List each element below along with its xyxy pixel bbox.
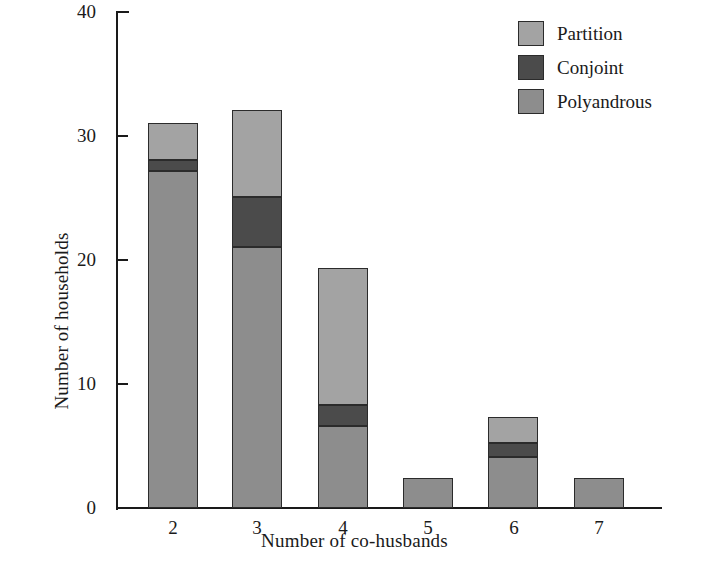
bar-group-7[interactable] <box>574 478 624 508</box>
bar-segment-conjoint <box>232 197 282 247</box>
bar-segment-partition <box>318 268 368 405</box>
stacked-bar-chart-figure: 40 30 20 10 0 <box>0 0 709 572</box>
bar-segment-conjoint <box>318 405 368 426</box>
legend-swatch-partition-icon <box>518 21 544 46</box>
bar-group-5[interactable] <box>403 478 453 508</box>
bar-segment-conjoint <box>488 443 538 457</box>
bar-group-6[interactable] <box>488 417 538 508</box>
bar-segment-polyandrous <box>574 478 624 508</box>
bar-segment-polyandrous <box>488 457 538 508</box>
legend-item-polyandrous[interactable]: Polyandrous <box>518 84 652 118</box>
bar-segment-polyandrous <box>403 478 453 508</box>
bar-group-4[interactable] <box>318 268 368 508</box>
bar-segment-partition <box>232 110 282 197</box>
legend-swatch-conjoint-icon <box>518 55 544 80</box>
legend: Partition Conjoint Polyandrous <box>518 16 652 118</box>
legend-label-polyandrous: Polyandrous <box>557 92 652 111</box>
y-axis-title-wrapper: Number of households <box>30 60 70 460</box>
legend-item-partition[interactable]: Partition <box>518 16 652 50</box>
legend-label-partition: Partition <box>557 24 622 43</box>
bar-segment-conjoint <box>148 160 198 171</box>
bar-segment-polyandrous <box>318 426 368 508</box>
bar-segment-polyandrous <box>148 171 198 508</box>
y-axis-title: Number of households <box>51 121 73 521</box>
bar-segment-polyandrous <box>232 247 282 508</box>
bar-segment-partition <box>488 417 538 443</box>
bar-group-2[interactable] <box>148 123 198 508</box>
legend-swatch-polyandrous-icon <box>518 89 544 114</box>
bar-segment-partition <box>148 123 198 160</box>
legend-label-conjoint: Conjoint <box>557 58 624 77</box>
x-axis-title: Number of co-husbands <box>0 530 709 552</box>
bar-group-3[interactable] <box>232 110 282 508</box>
legend-item-conjoint[interactable]: Conjoint <box>518 50 652 84</box>
